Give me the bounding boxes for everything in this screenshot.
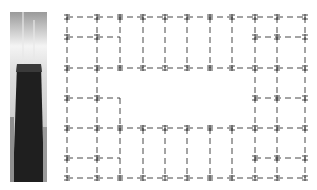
- floor-framing-plan: [0, 0, 317, 190]
- column-markers: [64, 14, 308, 181]
